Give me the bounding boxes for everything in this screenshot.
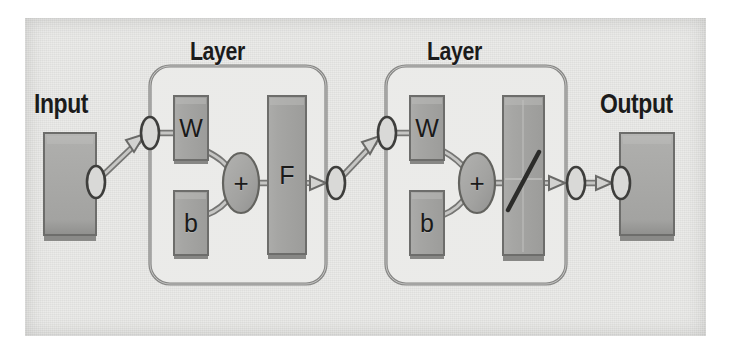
output-box-input-port[interactable] [612,167,630,199]
layer1-weight-label: W [174,114,208,143]
layer2-input-port[interactable] [378,117,396,149]
layer1-bias-label: b [174,209,208,238]
output-label: Output [600,88,673,120]
layer-1-label: Layer [190,36,245,67]
layer1-transfer-label: F [268,161,306,190]
layer1-sum-label: + [227,168,255,199]
diagram-canvas: Input Output Layer Layer W b + F W b + [0,0,741,361]
layer-2-label: Layer [427,36,482,67]
layer1-input-port[interactable] [141,117,159,149]
layer2-weight-label: W [410,114,444,143]
input-box-output-port[interactable] [87,166,105,198]
layer2-sum-label: + [463,168,491,199]
diagram-vector-layer [0,0,741,361]
layer2-output-port[interactable] [567,167,585,199]
layer2-bias-label: b [410,209,444,238]
layer2-transfer-block[interactable] [503,96,544,261]
input-label: Input [34,88,88,120]
layer1-output-port[interactable] [327,167,345,199]
